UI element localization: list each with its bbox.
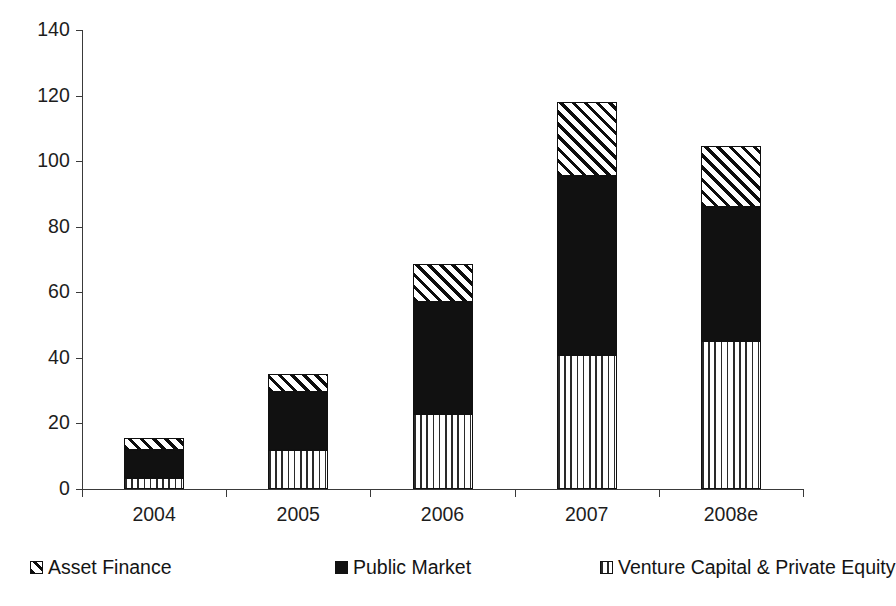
chart-legend: Asset FinancePublic MarketVenture Capita… <box>0 552 885 592</box>
x-tick-mark-origin <box>82 489 83 497</box>
y-tick-label: 40 <box>8 348 70 368</box>
x-tick-mark <box>226 489 227 497</box>
x-tick-label: 2006 <box>370 503 514 526</box>
x-tick-label: 2007 <box>515 503 659 526</box>
plot-area <box>82 30 803 489</box>
bar-segment <box>701 146 761 207</box>
x-tick-mark <box>370 489 371 497</box>
bar-segment <box>413 264 473 302</box>
legend-item[interactable]: Asset Finance <box>30 552 172 582</box>
y-tick-label: 0 <box>8 479 70 499</box>
x-axis-line <box>82 489 804 490</box>
x-tick-mark <box>659 489 660 497</box>
bar-2005 <box>268 30 328 489</box>
bar-segment <box>413 302 473 413</box>
bar-segment <box>124 438 184 449</box>
y-tick-label: 20 <box>8 413 70 433</box>
bar-2006 <box>413 30 473 489</box>
legend-swatch-icon <box>600 561 613 574</box>
bar-segment <box>557 355 617 489</box>
y-tick-label: 120 <box>8 86 70 106</box>
x-tick-mark <box>803 489 804 497</box>
bar-segment <box>557 102 617 176</box>
x-tick-mark <box>515 489 516 497</box>
bar-segment <box>413 414 473 489</box>
bar-segment <box>124 478 184 489</box>
legend-swatch-icon <box>30 561 43 574</box>
bar-2004 <box>124 30 184 489</box>
legend-label: Asset Finance <box>48 556 172 578</box>
bar-2007 <box>557 30 617 489</box>
bar-2008e <box>701 30 761 489</box>
legend-item[interactable]: Public Market <box>335 552 471 582</box>
x-tick-label: 2005 <box>226 503 370 526</box>
bar-segment <box>701 207 761 341</box>
y-tick-label: 80 <box>8 217 70 237</box>
y-tick-label: 60 <box>8 282 70 302</box>
bar-segment <box>268 392 328 449</box>
legend-swatch-icon <box>335 561 348 574</box>
bar-segment <box>701 341 761 489</box>
legend-item[interactable]: Venture Capital & Private Equity <box>600 552 896 582</box>
x-tick-label: 2004 <box>82 503 226 526</box>
y-tick-label: 100 <box>8 151 70 171</box>
x-tick-label: 2008e <box>659 503 803 526</box>
legend-label: Public Market <box>353 556 471 578</box>
bar-segment <box>268 450 328 489</box>
bar-segment <box>557 176 617 355</box>
legend-label: Venture Capital & Private Equity <box>618 556 896 578</box>
bar-segment <box>124 450 184 478</box>
bar-segment <box>268 374 328 392</box>
y-tick-label: 140 <box>8 20 70 40</box>
